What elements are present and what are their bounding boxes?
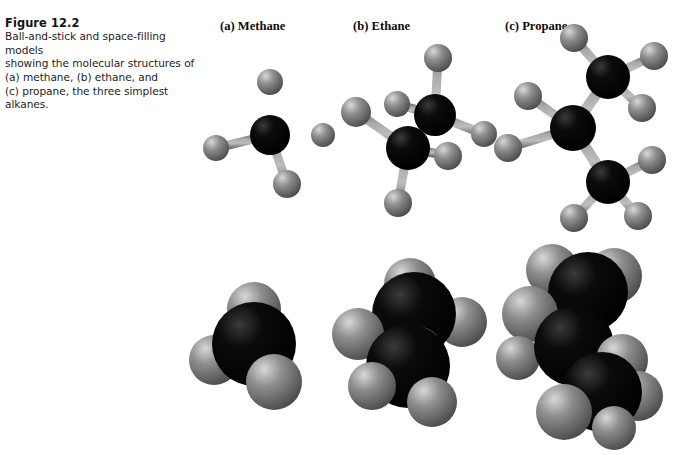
figure-number: Figure 12.2 [5,16,201,30]
propane-ball-and-stick-model [486,26,682,226]
column-heading-methane: (a) Methane [220,19,285,34]
ethane-ball-and-stick-model [326,42,506,212]
methane-space-filling-model [186,282,326,412]
figure-caption-block: Figure 12.2 Ball-and-stick and space-fil… [5,16,201,112]
column-heading-ethane: (b) Ethane [353,19,410,34]
methane-ball-and-stick-model [186,60,336,205]
figure-caption-text: Ball-and-stick and space-filling models … [5,30,201,112]
propane-space-filling-model [496,246,676,436]
ethane-space-filling-model [336,262,496,422]
